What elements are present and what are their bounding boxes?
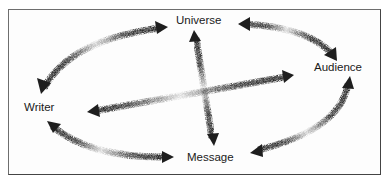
arrow-message-writer (47, 121, 174, 163)
arrowhead-icon (155, 21, 168, 34)
arrowhead-icon (282, 70, 294, 83)
arrow-universe-audience (238, 17, 337, 61)
arrowhead-icon (162, 151, 174, 163)
arrow-audience-message (250, 76, 354, 157)
arrowhead-icon (238, 17, 250, 31)
arrow-writer-universe (37, 21, 168, 94)
arrowhead-icon (87, 104, 100, 117)
arrowhead-icon (207, 133, 219, 146)
node-universe: Universe (176, 15, 221, 27)
node-writer: Writer (24, 102, 54, 114)
node-audience: Audience (314, 62, 362, 74)
node-message: Message (187, 152, 234, 164)
arrow-writer-audience (87, 70, 294, 117)
arrowhead-icon (342, 76, 354, 89)
arrowhead-icon (189, 30, 201, 42)
arrowhead-icon (250, 144, 263, 157)
